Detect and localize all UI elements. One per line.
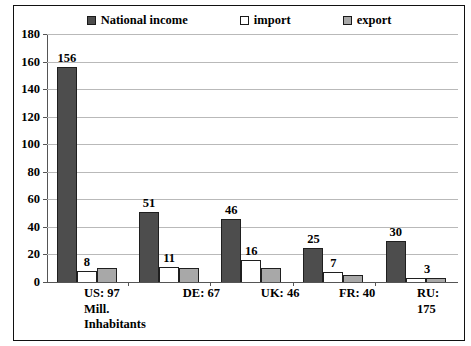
bar-label-de-import: 11 [163, 251, 175, 266]
x-label-uk-line1: UK: 46 [261, 286, 302, 302]
bar-de-national-income[interactable]: 51 [139, 212, 159, 282]
y-tick-label: 20 [28, 247, 41, 262]
x-label-us: US: 97 Mill. Inhabitants [47, 286, 146, 326]
plot-area: 180 160 140 120 100 80 60 40 20 0 [47, 34, 458, 282]
bar-us-export[interactable] [97, 268, 117, 282]
bar-uk-export[interactable] [261, 268, 281, 282]
legend-label-export: export [357, 14, 392, 27]
legend-label-national-income: National income [101, 14, 188, 27]
y-tick-label: 160 [21, 54, 40, 69]
bar-groups: 156 8 51 11 [47, 34, 458, 282]
bar-label-uk-import: 16 [245, 244, 258, 259]
bar-group-uk: 46 16 [211, 34, 293, 282]
bar-fr-export[interactable] [343, 275, 363, 282]
bar-group-de: 51 11 [129, 34, 211, 282]
bar-label-de-national-income: 51 [143, 196, 156, 211]
bar-uk-national-income[interactable]: 46 [221, 219, 241, 282]
bar-de-export[interactable] [179, 268, 199, 282]
bar-de-import[interactable]: 11 [159, 267, 179, 282]
y-tick-label: 100 [21, 137, 40, 152]
legend-swatch-import [240, 16, 249, 25]
x-label-us-line1: US: 97 Mill. [84, 286, 146, 317]
y-tick-label: 60 [28, 192, 41, 207]
legend-item-import: import [240, 14, 291, 27]
chart-legend: National income import export [14, 10, 464, 30]
y-tick-label: 80 [28, 164, 41, 179]
x-label-us-line2: Inhabitants [84, 317, 146, 333]
bar-label-ru-import: 3 [424, 262, 430, 277]
y-tick-label: 0 [34, 275, 40, 290]
bar-label-us-national-income: 156 [57, 51, 76, 66]
bar-us-import[interactable]: 8 [77, 271, 97, 282]
x-label-fr-line1: FR: 40 [339, 286, 380, 302]
bar-label-ru-national-income: 30 [389, 225, 402, 240]
y-tick-label: 120 [21, 109, 40, 124]
y-tick-label: 40 [28, 219, 41, 234]
x-label-fr: FR: 40 [302, 286, 380, 326]
bar-us-national-income[interactable]: 156 [57, 67, 77, 282]
x-label-uk: UK: 46 [224, 286, 302, 326]
bar-label-us-import: 8 [84, 255, 90, 270]
x-label-ru-line1: RU: 175 [417, 286, 458, 317]
bar-label-uk-national-income: 46 [225, 203, 238, 218]
y-tick-label: 180 [21, 27, 40, 42]
bar-uk-import[interactable]: 16 [241, 260, 261, 282]
bar-label-fr-import: 7 [330, 256, 336, 271]
x-axis-labels: US: 97 Mill. Inhabitants DE: 67 UK: 46 F… [47, 286, 458, 326]
bar-ru-national-income[interactable]: 30 [386, 241, 406, 282]
bar-group-fr: 25 7 [294, 34, 376, 282]
bar-group-us: 156 8 [47, 34, 129, 282]
chart-frame: National income import export 180 [13, 5, 465, 341]
x-label-de: DE: 67 [146, 286, 224, 326]
legend-item-export: export [343, 14, 392, 27]
legend-swatch-export [343, 16, 352, 25]
bar-fr-national-income[interactable]: 25 [303, 248, 323, 282]
bar-fr-import[interactable]: 7 [323, 272, 343, 282]
bar-ru-import[interactable]: 3 [406, 278, 426, 282]
legend-item-national-income: National income [87, 14, 188, 27]
bar-label-fr-national-income: 25 [307, 232, 320, 247]
bar-ru-export[interactable] [426, 278, 446, 282]
y-tick-label: 140 [21, 82, 40, 97]
legend-swatch-national-income [87, 16, 96, 25]
legend-label-import: import [254, 14, 291, 27]
x-label-de-line1: DE: 67 [183, 286, 224, 302]
bar-group-ru: 30 3 [376, 34, 458, 282]
x-label-ru: RU: 175 [380, 286, 458, 326]
